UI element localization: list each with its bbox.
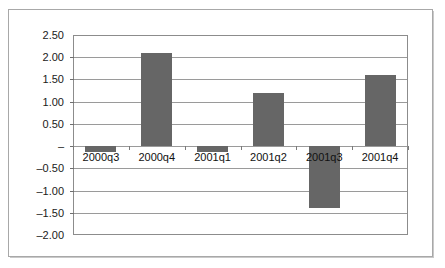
y-axis-tick-label: –1.50 — [36, 207, 64, 219]
x-axis-tick — [408, 146, 409, 150]
y-axis-tick-label-zero: – — [58, 140, 64, 152]
y-axis-tick-label: 2.00 — [43, 51, 64, 63]
y-axis-tick-label: 1.50 — [43, 73, 64, 85]
y-axis-tick-label: –2.00 — [36, 229, 64, 241]
x-axis-tick-label: 2001q3 — [306, 151, 343, 163]
y-axis-tick-label: 1.00 — [43, 96, 64, 108]
x-axis-tick-label: 2000q4 — [138, 151, 175, 163]
bar-chart: 2.50 2.00 1.50 1.00 0.50 – –0.50 –1.00 –… — [0, 0, 445, 268]
chart-screenshot: 2.50 2.00 1.50 1.00 0.50 – –0.50 –1.00 –… — [0, 0, 445, 268]
y-axis-tick-label: 0.50 — [43, 118, 64, 130]
y-axis-labels: 2.50 2.00 1.50 1.00 0.50 – –0.50 –1.00 –… — [0, 35, 68, 235]
y-axis-tick-label: –0.50 — [36, 162, 64, 174]
x-axis-tick-label: 2001q2 — [250, 151, 287, 163]
x-axis-tick-label: 2001q1 — [194, 151, 231, 163]
x-axis-tick-label: 2001q4 — [362, 151, 399, 163]
x-axis-tick-label: 2000q3 — [83, 151, 120, 163]
y-axis-tick-label: 2.50 — [43, 29, 64, 41]
x-axis-labels: 2000q32000q42001q12001q22001q32001q4 — [73, 35, 408, 235]
y-axis-tick-label: –1.00 — [36, 185, 64, 197]
